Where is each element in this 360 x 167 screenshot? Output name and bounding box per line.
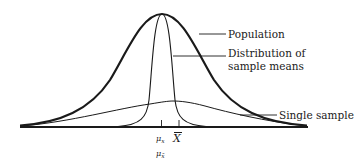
mu-x-subscript: x [161, 137, 164, 144]
label-population: Population [228, 28, 285, 40]
mu-xbar-subscript: x̄ [161, 152, 164, 159]
label-distribution-line1: Distribution of [228, 47, 305, 59]
x-glyph: X [173, 132, 181, 145]
symbol-mu-xbar: μx̄ [156, 149, 165, 159]
symbol-x-bar: X [173, 132, 181, 145]
sample-means-curve [118, 14, 206, 127]
symbol-mu-x: μx [156, 134, 165, 144]
label-single-sample: Single sample [279, 109, 354, 121]
overbar [174, 132, 182, 133]
single-sample-curve [22, 101, 302, 126]
label-distribution-line2: sample means [228, 60, 304, 72]
